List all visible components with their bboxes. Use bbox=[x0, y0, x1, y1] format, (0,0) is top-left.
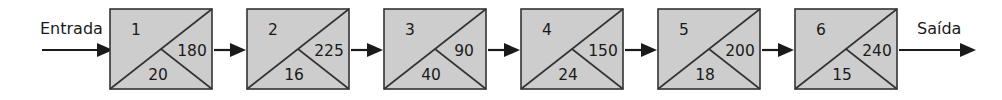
input-arrow bbox=[42, 43, 113, 57]
station-1[interactable]: 1 180 20 bbox=[110, 9, 212, 89]
connector-arrow-5-to-6 bbox=[762, 43, 794, 57]
station-3-number: 3 bbox=[405, 21, 415, 39]
output-endpoint: Saída bbox=[899, 19, 976, 57]
connector-arrow-4-to-5 bbox=[625, 43, 657, 57]
station-1-number: 1 bbox=[131, 21, 141, 39]
flow-diagram-canvas: Entrada 1 180 20 2 225 16 bbox=[0, 0, 1002, 100]
station-3[interactable]: 3 90 40 bbox=[384, 9, 486, 89]
station-3-right-value: 90 bbox=[454, 42, 474, 60]
output-label: Saída bbox=[917, 19, 961, 38]
station-2-right-value: 225 bbox=[314, 42, 344, 60]
connector-arrow-1-to-2 bbox=[214, 43, 246, 57]
station-1-right-value: 180 bbox=[177, 42, 207, 60]
station-2[interactable]: 2 225 16 bbox=[247, 9, 349, 89]
station-5[interactable]: 5 200 18 bbox=[658, 9, 760, 89]
station-4-bottom-value: 24 bbox=[558, 66, 578, 84]
station-6-bottom-value: 15 bbox=[832, 66, 852, 84]
station-6-right-value: 240 bbox=[862, 42, 892, 60]
output-arrow bbox=[899, 43, 976, 57]
station-4[interactable]: 4 150 24 bbox=[521, 9, 623, 89]
input-label: Entrada bbox=[40, 19, 103, 38]
station-5-right-value: 200 bbox=[725, 42, 755, 60]
station-2-number: 2 bbox=[268, 21, 278, 39]
connector-arrow-3-to-4 bbox=[488, 43, 520, 57]
station-5-number: 5 bbox=[679, 21, 689, 39]
station-4-number: 4 bbox=[542, 21, 552, 39]
input-endpoint: Entrada bbox=[40, 19, 113, 57]
station-1-bottom-value: 20 bbox=[148, 66, 168, 84]
process-flow-diagram: Entrada 1 180 20 2 225 16 bbox=[0, 0, 1002, 100]
station-5-bottom-value: 18 bbox=[695, 66, 715, 84]
station-6-number: 6 bbox=[816, 21, 826, 39]
station-4-right-value: 150 bbox=[588, 42, 618, 60]
station-2-bottom-value: 16 bbox=[284, 66, 304, 84]
connector-arrow-2-to-3 bbox=[351, 43, 383, 57]
station-3-bottom-value: 40 bbox=[421, 66, 441, 84]
station-6[interactable]: 6 240 15 bbox=[795, 9, 897, 89]
